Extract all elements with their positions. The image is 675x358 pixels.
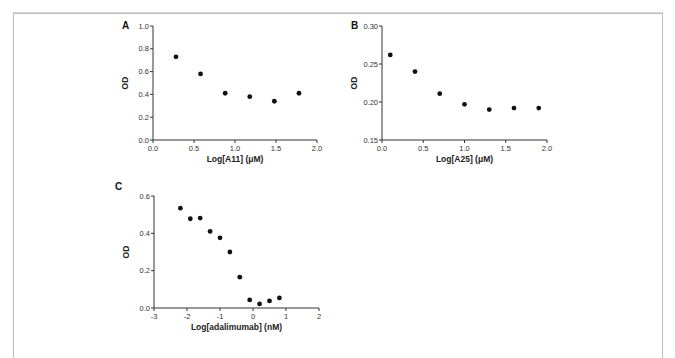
- x-tick-label: 2: [317, 312, 321, 321]
- y-tick-label: 0.20: [363, 98, 378, 107]
- panel-letter: A: [122, 20, 129, 31]
- x-tick-label: 0.0: [148, 144, 158, 153]
- y-tick-label: 0.25: [363, 60, 378, 69]
- x-tick-label: 1.5: [271, 144, 281, 153]
- data-point: [487, 107, 492, 112]
- data-point: [178, 206, 183, 211]
- x-tick-label: 1.5: [501, 144, 511, 153]
- panel-c: 0.00.20.40.6-3-2-1012Log[adalimumab] (nM…: [115, 181, 321, 332]
- y-tick-label: 1.0: [139, 22, 149, 31]
- x-tick-label: 0.5: [189, 144, 199, 153]
- data-point: [512, 106, 517, 111]
- x-tick-label: -1: [217, 312, 224, 321]
- data-point: [257, 301, 262, 306]
- data-point: [388, 52, 393, 57]
- panel-letter: B: [351, 20, 358, 31]
- data-point: [272, 99, 277, 104]
- x-tick-label: -3: [151, 312, 158, 321]
- y-axis-title: OD: [121, 246, 131, 259]
- y-tick-label: 0.4: [140, 229, 150, 238]
- x-axis-title: Log[A25] (μM): [436, 154, 493, 164]
- panel-letter: C: [115, 181, 122, 192]
- x-axis-title: Log[A11] (μM): [207, 154, 264, 164]
- data-point: [208, 229, 213, 234]
- data-point: [277, 296, 282, 301]
- x-tick-label: 2.0: [312, 144, 322, 153]
- data-point: [413, 69, 418, 74]
- data-point: [437, 91, 442, 96]
- data-point: [174, 54, 179, 59]
- data-point: [223, 91, 228, 96]
- y-tick-label: 0.8: [139, 44, 149, 53]
- x-tick-label: 0.0: [377, 144, 387, 153]
- y-tick-label: 0.2: [139, 113, 149, 122]
- y-tick-label: 0.0: [140, 304, 150, 313]
- data-point: [188, 216, 193, 221]
- data-point: [237, 275, 242, 280]
- data-point: [198, 216, 203, 221]
- y-axis-title: OD: [120, 77, 130, 90]
- data-point: [297, 91, 302, 96]
- x-tick-label: 1: [284, 312, 288, 321]
- y-axis-title: OD: [349, 77, 359, 90]
- y-tick-label: 0.2: [140, 266, 150, 275]
- data-point: [218, 235, 223, 240]
- y-tick-label: 0.30: [363, 22, 378, 31]
- y-tick-label: 0.6: [140, 192, 150, 201]
- data-point: [536, 106, 541, 111]
- x-tick-label: 2.0: [542, 144, 552, 153]
- x-tick-label: 0.5: [418, 144, 428, 153]
- x-tick-label: 1.0: [459, 144, 469, 153]
- y-tick-label: 0.6: [139, 67, 149, 76]
- data-point: [247, 298, 252, 303]
- x-axis-title: Log[adalimumab] (nM): [191, 322, 282, 332]
- panel-b: 0.150.200.250.300.00.51.01.52.0Log[A25] …: [349, 20, 552, 164]
- x-tick-label: 0: [251, 312, 255, 321]
- data-point: [228, 250, 233, 255]
- data-point: [267, 299, 272, 304]
- x-tick-label: -2: [184, 312, 191, 321]
- x-tick-label: 1.0: [230, 144, 240, 153]
- y-tick-label: 0.4: [139, 90, 149, 99]
- panel-a: 0.00.20.40.60.81.00.00.51.01.52.0Log[A11…: [120, 20, 322, 164]
- data-point: [462, 102, 467, 107]
- data-point: [247, 94, 252, 99]
- data-point: [198, 71, 203, 76]
